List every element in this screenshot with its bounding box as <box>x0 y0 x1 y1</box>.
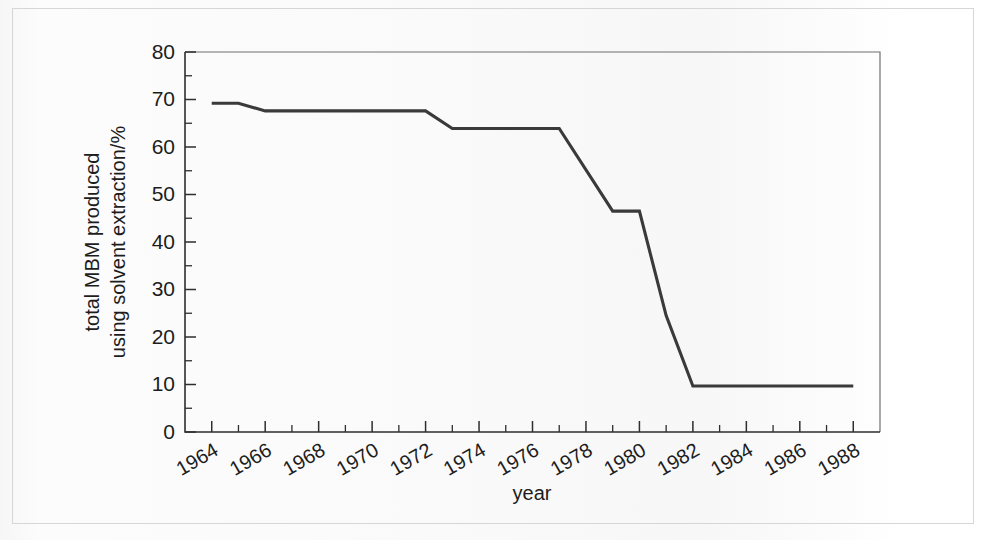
x-tick-label: 1984 <box>707 438 757 479</box>
y-tick-label: 70 <box>152 87 175 110</box>
y-axis-title: total MBM produced using solvent extract… <box>81 126 129 359</box>
series-line-mbm-solvent-extraction <box>212 103 854 386</box>
y-tick-label: 30 <box>152 277 175 300</box>
y-tick-label: 20 <box>152 325 175 348</box>
x-tick-label: 1986 <box>760 438 810 479</box>
y-axis-tick-labels: 01020304050607080 <box>152 40 175 443</box>
data-series-group <box>212 103 854 386</box>
x-axis-tick-labels: 1964196619681970197219741976197819801982… <box>172 438 863 479</box>
x-axis-major-ticks <box>212 421 854 432</box>
x-tick-label: 1988 <box>814 438 864 479</box>
y-tick-label: 60 <box>152 135 175 158</box>
y-tick-label: 50 <box>152 182 175 205</box>
y-axis-major-ticks <box>185 52 196 432</box>
y-axis-title-line2: using solvent extraction/% <box>107 126 129 359</box>
x-tick-label: 1970 <box>333 438 383 479</box>
x-axis-title: year <box>513 482 552 504</box>
y-tick-label: 0 <box>163 420 175 443</box>
y-tick-label: 40 <box>152 230 175 253</box>
x-tick-label: 1968 <box>279 438 329 479</box>
line-chart: 01020304050607080 1964196619681970197219… <box>0 0 987 540</box>
y-tick-label: 10 <box>152 372 175 395</box>
plot-axes <box>185 52 880 432</box>
x-tick-label: 1972 <box>386 438 436 479</box>
x-tick-label: 1966 <box>226 438 276 479</box>
x-tick-label: 1982 <box>653 438 703 479</box>
x-tick-label: 1974 <box>440 438 490 479</box>
y-axis-title-line1: total MBM produced <box>81 153 103 332</box>
x-tick-label: 1978 <box>546 438 596 479</box>
x-tick-label: 1976 <box>493 438 543 479</box>
plot-frame <box>185 52 880 432</box>
x-tick-label: 1980 <box>600 438 650 479</box>
y-tick-label: 80 <box>152 40 175 63</box>
figure-container: 01020304050607080 1964196619681970197219… <box>0 0 987 540</box>
x-tick-label: 1964 <box>172 438 222 479</box>
